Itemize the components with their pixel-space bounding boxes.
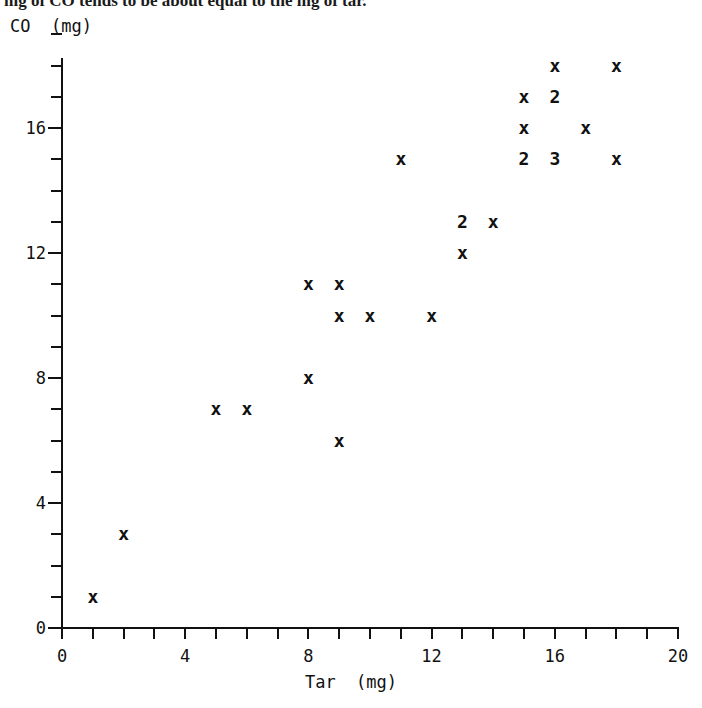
x-axis-tick [307, 628, 309, 639]
y-axis-tick [48, 127, 62, 129]
x-axis-tick [646, 628, 648, 639]
x-axis-tick [431, 628, 433, 639]
x-axis-tick [369, 628, 371, 639]
x-axis-tick [492, 628, 494, 639]
y-axis-tick [51, 33, 62, 35]
data-point-marker: x [115, 525, 133, 543]
data-point-marker: x [607, 150, 625, 168]
x-axis-tick [554, 628, 556, 639]
y-axis-tick [51, 471, 62, 473]
y-axis-tick [51, 315, 62, 317]
y-axis-tick [51, 565, 62, 567]
y-axis-tick [51, 533, 62, 535]
data-point-marker: x [392, 150, 410, 168]
y-axis-tick [48, 502, 62, 504]
data-point-marker: x [330, 432, 348, 450]
x-axis-tick [585, 628, 587, 639]
data-point-marker: x [453, 244, 471, 262]
x-axis-tick [400, 628, 402, 639]
data-point-marker: x [515, 88, 533, 106]
data-point-marker: x [423, 307, 441, 325]
x-axis-tick [92, 628, 94, 639]
x-axis-tick [338, 628, 340, 639]
data-point-count-marker: 3 [546, 150, 564, 168]
x-axis-tick-label: 4 [168, 646, 202, 666]
x-axis-tick [461, 628, 463, 639]
data-point-marker: x [330, 307, 348, 325]
x-axis-title: Tar (mg) [0, 672, 702, 692]
x-axis-tick-label: 0 [45, 646, 79, 666]
y-axis-tick [51, 346, 62, 348]
y-axis-tick [51, 96, 62, 98]
y-axis-tick-label: 0 [12, 618, 46, 638]
y-axis-tick [51, 283, 62, 285]
x-axis-tick [123, 628, 125, 639]
data-point-marker: x [299, 369, 317, 387]
y-axis-tick [51, 596, 62, 598]
data-point-marker: x [207, 400, 225, 418]
data-point-marker: x [607, 57, 625, 75]
y-axis-tick-label: 4 [12, 493, 46, 513]
y-axis-tick [48, 377, 62, 379]
data-point-count-marker: 2 [453, 213, 471, 231]
x-axis-tick [523, 628, 525, 639]
data-point-marker: x [577, 119, 595, 137]
x-axis-tick [677, 628, 679, 639]
data-point-marker: x [484, 213, 502, 231]
y-axis-tick-label: 8 [12, 368, 46, 388]
y-axis-tick [51, 221, 62, 223]
data-point-count-marker: 2 [546, 88, 564, 106]
y-axis-tick-label: 12 [12, 243, 46, 263]
y-axis-tick [48, 252, 62, 254]
x-axis-tick-label: 20 [661, 646, 695, 666]
x-axis-tick [153, 628, 155, 639]
data-point-marker: x [238, 400, 256, 418]
data-point-marker: x [299, 275, 317, 293]
x-axis-tick [184, 628, 186, 639]
data-point-count-marker: 2 [515, 150, 533, 168]
x-axis-tick-label: 12 [415, 646, 449, 666]
y-axis-tick [51, 408, 62, 410]
data-point-marker: x [546, 57, 564, 75]
x-axis-tick [215, 628, 217, 639]
data-point-marker: x [361, 307, 379, 325]
data-point-marker: x [330, 275, 348, 293]
y-axis-tick [51, 440, 62, 442]
x-axis-tick [615, 628, 617, 639]
scatter-plot: CO (mg) Tar (mg) 0481216 048121620 xxxxx… [0, 0, 702, 708]
y-axis-tick [51, 65, 62, 67]
data-point-marker: x [84, 588, 102, 606]
data-point-marker: x [515, 119, 533, 137]
y-axis-tick-label: 16 [12, 118, 46, 138]
x-axis-tick [277, 628, 279, 639]
y-axis-tick [48, 627, 62, 629]
x-axis-tick-label: 8 [291, 646, 325, 666]
x-axis-tick [61, 617, 63, 639]
y-axis-tick [51, 190, 62, 192]
y-axis-spine [61, 58, 63, 629]
x-axis-tick [246, 628, 248, 639]
x-axis-tick-label: 16 [538, 646, 572, 666]
y-axis-tick [51, 158, 62, 160]
